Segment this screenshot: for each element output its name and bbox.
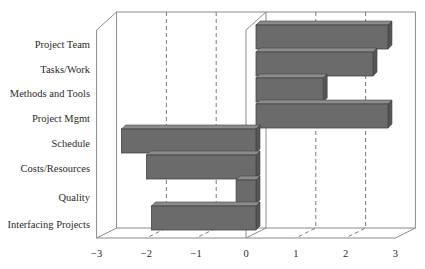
bar bbox=[151, 202, 260, 230]
x-tick-label: 1 bbox=[293, 248, 298, 259]
category-label: Project Mgmt bbox=[32, 113, 90, 124]
x-tick-label: −1 bbox=[191, 248, 202, 259]
x-tick-label: −2 bbox=[141, 248, 152, 259]
bar bbox=[122, 125, 260, 153]
x-axis-tick-labels: −3−2−10123 bbox=[91, 248, 398, 259]
category-label: Quality bbox=[59, 192, 91, 203]
category-label: Interfacing Projects bbox=[7, 219, 90, 230]
category-label: Methods and Tools bbox=[10, 88, 90, 99]
x-tick-label: 2 bbox=[343, 248, 348, 259]
x-tick-label: 0 bbox=[243, 248, 248, 259]
category-label: Costs/Resources bbox=[21, 163, 90, 174]
x-tick-label: −3 bbox=[91, 248, 102, 259]
bar bbox=[256, 48, 377, 76]
category-label: Project Team bbox=[35, 39, 90, 50]
x-tick-label: 3 bbox=[393, 248, 398, 259]
horizontal-bar-chart: Project TeamTasks/WorkMethods and ToolsP… bbox=[0, 0, 425, 269]
bar bbox=[256, 21, 392, 49]
bar bbox=[256, 100, 392, 128]
bars bbox=[122, 21, 392, 230]
category-label: Tasks/Work bbox=[40, 64, 90, 75]
left-wall bbox=[97, 12, 117, 238]
category-labels: Project TeamTasks/WorkMethods and ToolsP… bbox=[7, 39, 90, 230]
category-label: Schedule bbox=[52, 138, 91, 149]
bar bbox=[236, 176, 260, 204]
bar bbox=[146, 151, 260, 179]
bar bbox=[256, 74, 327, 102]
